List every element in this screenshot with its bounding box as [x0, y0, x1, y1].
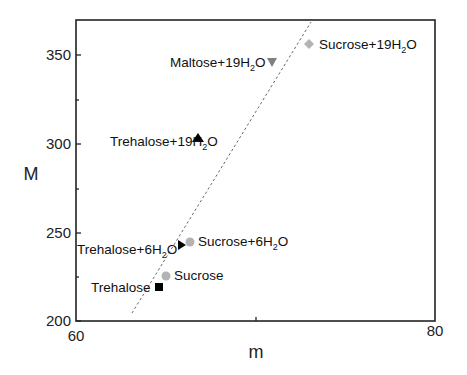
y-tick-350: 350: [46, 46, 71, 63]
label-trehalose-6h2o: Trehalose+6H2O: [77, 242, 177, 260]
label-sucrose-19h2o: Sucrose+19H2O: [319, 37, 417, 55]
y-axis-label: M: [24, 164, 39, 184]
x-tick-80: 80: [427, 322, 444, 339]
marker-trehalose-6h2o-triangle-right: [178, 240, 186, 250]
label-maltose-19h2o: Maltose+19H2O: [170, 55, 265, 73]
label-trehalose-19h2o: Trehalose+19H2O: [110, 134, 218, 152]
y-tick-250: 250: [46, 224, 71, 241]
marker-sucrose-6h2o-circle: [186, 238, 195, 247]
marker-sucrose-circle: [162, 272, 171, 281]
label-sucrose-6h2o: Sucrose+6H2O: [198, 234, 288, 252]
marker-sucrose-19h2o-diamond: [304, 39, 314, 49]
x-axis-label: m: [249, 342, 264, 362]
x-tick-60: 60: [68, 327, 85, 344]
label-trehalose: Trehalose: [91, 280, 151, 295]
y-tick-300: 300: [46, 135, 71, 152]
label-sucrose: Sucrose: [174, 268, 224, 283]
marker-trehalose-square: [155, 283, 163, 291]
marker-maltose-19h2o-triangle-down: [267, 58, 277, 67]
scatter-chart: 200 250 300 350 60 80 m M Trehalose Sucr…: [0, 0, 467, 375]
